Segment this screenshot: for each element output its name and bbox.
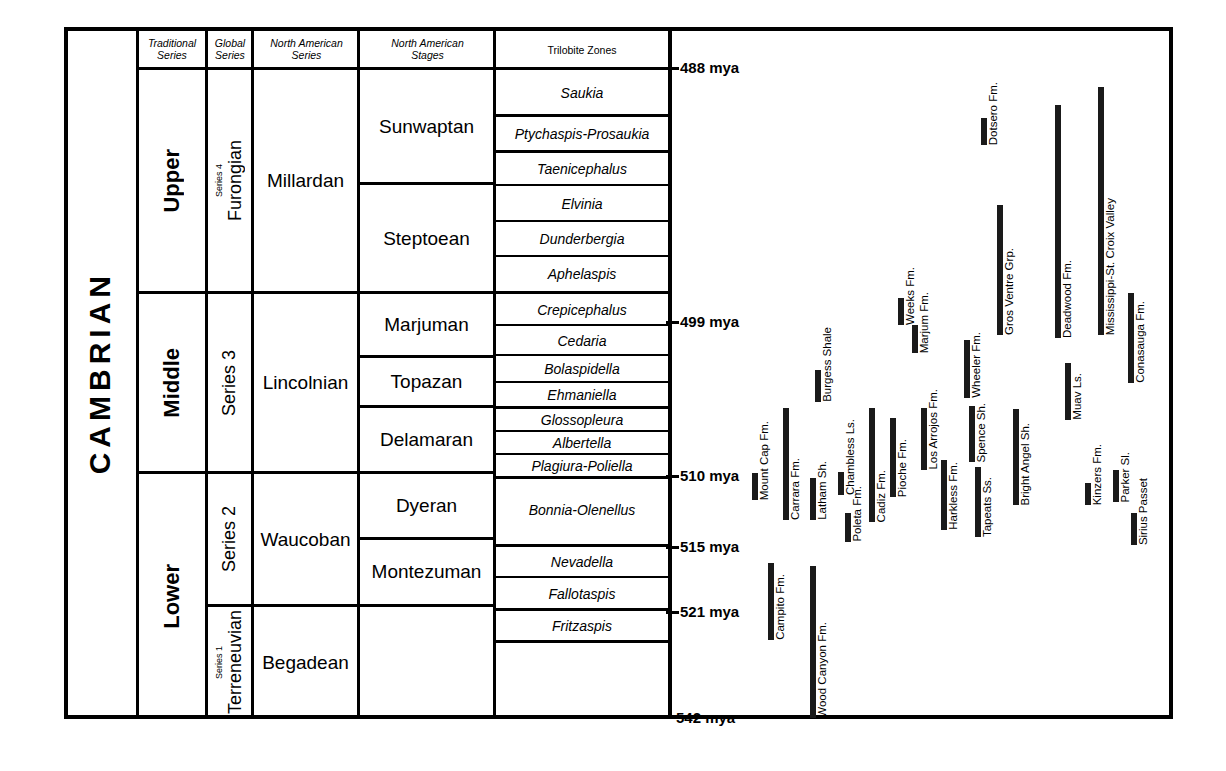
cell-label: Taenicephalus xyxy=(537,161,627,177)
na-stage-marjuman: Marjuman xyxy=(360,294,493,356)
global-series-stack: Terreneuvian Series 1 xyxy=(214,610,246,714)
global-series-furongian: Furongian Series 4 xyxy=(208,70,251,292)
trilobite-zone-saukia: Saukia xyxy=(496,70,668,115)
global-series-stack: Furongian Series 4 xyxy=(214,140,246,221)
cell-label: Delamaran xyxy=(380,429,473,451)
trilobite-zone-glossopleura: Glossopleura xyxy=(496,409,668,431)
na-stage-dyeran: Dyeran xyxy=(360,474,493,538)
traditional-series-lower: Lower xyxy=(139,474,205,718)
trilobite-zone-albertella: Albertella xyxy=(496,432,668,454)
formation-label: Tapeats Ss. xyxy=(982,477,994,537)
formation-label: Kinzers Fm. xyxy=(1092,444,1104,505)
cell-label: Lower xyxy=(159,564,185,629)
cell-label: Fallotaspis xyxy=(549,586,616,602)
formation-label: Marjum Fm. xyxy=(919,292,931,353)
trilobite-zone-elvinia: Elvinia xyxy=(496,186,668,221)
cell-label: Topazan xyxy=(391,371,463,393)
header-line-2: Stages xyxy=(391,50,464,62)
cell-label: Ptychaspis-Prosaukia xyxy=(515,126,650,142)
cell-label: Sunwaptan xyxy=(379,116,474,138)
trilobite-zone-taenicephalus: Taenicephalus xyxy=(496,153,668,185)
cell-label: Albertella xyxy=(553,435,611,451)
cell-label: Cedaria xyxy=(557,333,606,349)
cell-label: Glossopleura xyxy=(541,412,624,428)
trilobite-zone-aphelaspis: Aphelaspis xyxy=(496,257,668,291)
formation-label: Mississippi-St. Croix Valley xyxy=(1105,198,1117,335)
time-tick-515 xyxy=(666,546,679,549)
trilobite-zone-fritzaspis: Fritzaspis xyxy=(496,611,668,641)
header-global-series: Global Series xyxy=(207,31,253,68)
cell-label: Aphelaspis xyxy=(548,266,617,282)
header-line-2: Series xyxy=(148,50,196,62)
formation-label: Chambless Ls. xyxy=(845,419,857,495)
cell-label: Crepicephalus xyxy=(537,302,627,318)
time-label-510: 510 mya xyxy=(680,467,739,484)
cell-sublabel: Series 4 xyxy=(214,164,224,197)
cell-sublabel: Series 1 xyxy=(214,646,224,679)
formation-label: Parker Sl. xyxy=(1120,452,1132,503)
time-tick-510 xyxy=(666,475,679,478)
na-stage-sep-7 xyxy=(357,604,496,607)
na-series-waucoban: Waucoban xyxy=(254,474,357,605)
formation-label: Gros Ventre Grp. xyxy=(1004,248,1016,335)
zone-sep-17 xyxy=(493,640,671,643)
formation-label: Bright Angel Sh. xyxy=(1020,423,1032,505)
header-line-1: Trilobite Zones xyxy=(547,44,616,56)
formation-label: Cadiz Fm. xyxy=(876,470,888,522)
cell-label: Middle xyxy=(159,348,185,418)
header-line-1: North American xyxy=(270,38,343,50)
header-line-1: Global xyxy=(215,38,245,50)
formation-label: Los Arrojos Fm. xyxy=(928,389,940,470)
cell-label: Upper xyxy=(159,149,185,213)
cell-label: Dyeran xyxy=(396,495,457,517)
header-north-american-stages: North American Stages xyxy=(360,31,495,68)
time-tick-499 xyxy=(666,321,679,324)
formation-label: Deadwood Fm. xyxy=(1062,260,1074,338)
cell-label: Montezuman xyxy=(372,561,482,583)
header-line-2: Series xyxy=(215,50,245,62)
time-label-488: 488 mya xyxy=(680,59,739,76)
formation-label: Sirius Passet xyxy=(1138,478,1150,545)
na-stage-montezuman: Montezuman xyxy=(360,540,493,604)
cell-label: Begadean xyxy=(262,652,349,674)
time-label-499: 499 mya xyxy=(680,313,739,330)
time-label-521: 521 mya xyxy=(680,603,739,620)
cell-label: Bonnia-Olenellus xyxy=(529,502,636,518)
formation-label: Conasauga Fm. xyxy=(1135,301,1147,383)
formation-label: Muav Ls. xyxy=(1072,373,1084,420)
cell-label: Millardan xyxy=(267,170,344,192)
cell-label: Lincolnian xyxy=(263,372,349,394)
cell-label: Saukia xyxy=(561,85,604,101)
traditional-series-upper: Upper xyxy=(139,70,205,292)
na-stage-topazan: Topazan xyxy=(360,358,493,406)
global-series-series-3: Series 3 xyxy=(208,294,251,472)
trilobite-zone-ptychaspis-prosaukia: Ptychaspis-Prosaukia xyxy=(496,117,668,151)
trilobite-zone-plagiura-poliella: Plagiura-Poliella xyxy=(496,455,668,477)
header-line-1: North American xyxy=(391,38,464,50)
formation-label: Weeks Fm. xyxy=(905,267,917,325)
stratigraphic-chart: CAMBRIAN Traditional Series Global Serie… xyxy=(0,0,1226,771)
header-traditional-series: Traditional Series xyxy=(138,31,206,68)
na-series-begadean: Begadean xyxy=(254,607,357,718)
global-series-terreneuvian: Terreneuvian Series 1 xyxy=(208,607,251,718)
trilobite-zone-fallotaspis: Fallotaspis xyxy=(496,578,668,609)
formation-label: Wood Canyon Fm. xyxy=(817,622,829,718)
header-north-american-series: North American Series xyxy=(254,31,359,68)
formation-label: Wheeler Fm. xyxy=(971,332,983,398)
cell-label: Furongian xyxy=(225,140,246,221)
cell-label: Waucoban xyxy=(260,529,350,551)
trilobite-zone-dunderbergia: Dunderbergia xyxy=(496,222,668,256)
cell-label: Series 2 xyxy=(219,506,240,572)
cell-label: Marjuman xyxy=(384,314,468,336)
global-series-series-2: Series 2 xyxy=(208,474,251,605)
formation-label: Spence Sh. xyxy=(976,403,988,462)
trilobite-zone-nevadella: Nevadella xyxy=(496,547,668,577)
formation-label: Pioche Fm. xyxy=(897,439,909,497)
formation-label: Poleta Fm. xyxy=(852,486,864,542)
trilobite-zone-bolaspidella: Bolaspidella xyxy=(496,356,668,382)
trilobite-zone-cedaria: Cedaria xyxy=(496,326,668,355)
cell-label: Dunderbergia xyxy=(540,231,625,247)
time-tick-488 xyxy=(666,67,679,70)
formation-label: Burgess Shale xyxy=(822,327,834,402)
trilobite-zone-bonnia-olenellus: Bonnia-Olenellus xyxy=(496,479,668,541)
